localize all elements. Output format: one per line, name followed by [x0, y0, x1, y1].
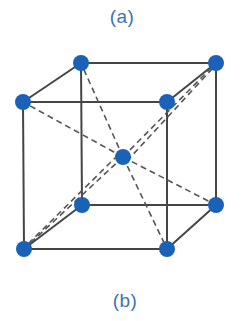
atom-top-back-left — [73, 55, 89, 71]
edge-top-left-depth — [23, 63, 81, 102]
dash-center-top-back-right — [123, 63, 216, 157]
dash-center-bottom-front-left — [24, 157, 123, 249]
dash-center-top-front-left — [23, 102, 123, 157]
edge-front-left-vertical — [23, 102, 24, 249]
figure-label-b: (b) — [0, 290, 250, 312]
dash-center-bottom-back-left — [28, 155, 118, 244]
atom-top-back-right — [208, 55, 224, 71]
edge-back-left-vertical — [81, 63, 82, 205]
atom-bottom-back-left — [74, 197, 90, 213]
atom-bottom-front-left — [16, 241, 32, 257]
dash-center-top-back-left — [81, 63, 123, 157]
dash-center-bottom-front-right — [123, 157, 167, 249]
atom-bottom-back-right — [208, 197, 224, 213]
atom-bottom-front-right — [159, 241, 175, 257]
edge-bottom-left-depth — [24, 205, 82, 249]
atom-top-front-left — [15, 94, 31, 110]
bcc-unit-cell-diagram — [0, 0, 250, 321]
dash-center-bottom-back-right — [123, 157, 216, 205]
atom-top-front-right — [159, 94, 175, 110]
atom-body-center — [115, 149, 131, 165]
edge-top-right-depth — [167, 63, 216, 102]
dash-center-top-front-right — [127, 69, 212, 161]
edge-bottom-right-depth — [167, 205, 216, 249]
